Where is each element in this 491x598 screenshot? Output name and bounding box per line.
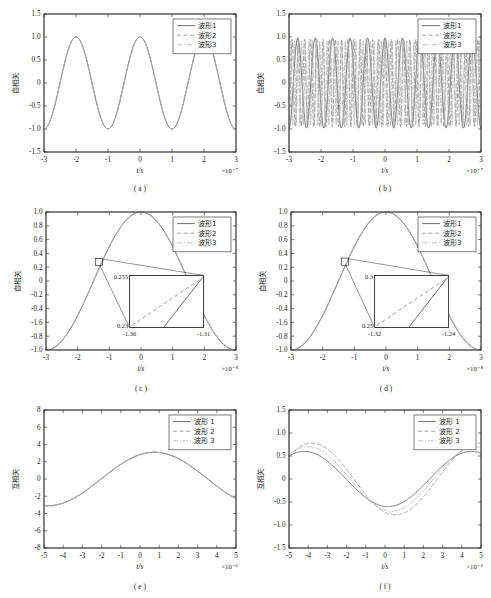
x-tick-label: 1 xyxy=(402,552,406,560)
y-tick-label: -0.2 xyxy=(31,291,43,299)
y-tick-label: -0.2 xyxy=(276,291,288,299)
y-tick-label: 6 xyxy=(37,424,41,432)
x-tick-label: -2 xyxy=(344,552,350,560)
x-tick-label: -5 xyxy=(286,552,292,560)
y-axis-label: 自相关 xyxy=(11,72,20,94)
legend-label-2: 波形2 xyxy=(443,31,461,40)
x-axis-label: t/s xyxy=(382,167,389,175)
y-tick-label: -0.4 xyxy=(276,305,288,313)
x-tick-label: 5 xyxy=(479,552,483,560)
x-tick-label: -2 xyxy=(99,552,105,560)
x-tick-label: -1 xyxy=(106,354,112,362)
y-tick-label: 1.0 xyxy=(277,33,286,41)
x-tick-label: -1 xyxy=(351,354,357,362)
y-tick-label: -1.0 xyxy=(31,346,43,354)
x-tick-label: 1 xyxy=(170,156,174,164)
y-tick-label: 0 xyxy=(37,475,41,483)
x-tick-label: -2 xyxy=(73,156,79,164)
inset-y-tick-label-top: 0.255 xyxy=(114,273,128,280)
x-tick-label: 0 xyxy=(384,354,388,362)
y-tick-label: 0.6 xyxy=(279,236,288,244)
y-tick-label: 2 xyxy=(37,458,41,466)
y-axis-label: 互相关 xyxy=(256,468,265,490)
x-tick-label: 3 xyxy=(196,552,200,560)
x-tick-label: 2 xyxy=(177,552,181,560)
plot-panel-c: -3-2-10123-1.0-0.8-1.6-0.4-0.200.20.40.6… xyxy=(0,200,246,398)
series-curve-3 xyxy=(289,447,481,511)
x-tick-label: 3 xyxy=(441,552,445,560)
y-tick-label: 0.5 xyxy=(277,56,286,64)
subplot-caption: ( e ) xyxy=(134,582,146,591)
plot-panel-b: -3-2-10123-1.5-1.0-0.500.51.01.5t/s×10⁻⁷… xyxy=(245,2,491,198)
y-tick-label: 0.8 xyxy=(34,222,43,230)
x-tick-label: 0 xyxy=(138,552,142,560)
inset-x-tick-label-left: -1.32 xyxy=(368,330,381,337)
x-tick-label: 5 xyxy=(234,552,238,560)
y-tick-label: -1.5 xyxy=(274,148,286,156)
y-tick-label: 4 xyxy=(37,441,41,449)
y-tick-label: -1.0 xyxy=(29,125,41,133)
y-axis-label: 自相关 xyxy=(256,72,265,94)
legend-label-2: 波形 2 xyxy=(194,427,215,436)
inset-y-tick-label-top: 0.3 xyxy=(365,273,373,280)
legend-label-3: 波形3 xyxy=(198,40,216,49)
figure-six-panel-correlation: -3-2-10123-1.5-1.0-0.500.51.01.5t/s×10⁻⁷… xyxy=(0,0,491,598)
legend-label-1: 波形1 xyxy=(443,21,461,30)
x-tick-label: -3 xyxy=(286,156,292,164)
x-tick-label: -3 xyxy=(43,354,49,362)
y-tick-label: -1.5 xyxy=(274,544,286,552)
y-axis-label: 自相关 xyxy=(258,270,267,292)
legend-label-3: 波形3 xyxy=(443,238,461,247)
x-tick-label: 2 xyxy=(202,156,206,164)
x-tick-label: 1 xyxy=(157,552,161,560)
x-axis-exponent: ×10⁻⁸ xyxy=(221,365,238,372)
y-tick-label: 0 xyxy=(284,277,288,285)
x-tick-label: -5 xyxy=(41,552,47,560)
subplot-caption: ( d ) xyxy=(380,384,393,393)
y-tick-label: -2 xyxy=(35,493,41,501)
x-axis-exponent: ×10⁻⁷ xyxy=(221,167,238,174)
x-tick-label: 0 xyxy=(139,354,143,362)
y-tick-label: -6 xyxy=(35,527,41,535)
x-axis-exponent: ×10⁻⁷ xyxy=(466,167,483,174)
x-axis-label: t/s xyxy=(138,365,145,373)
legend-label-1: 波形 1 xyxy=(439,417,460,426)
y-axis-label: 互相关 xyxy=(11,468,20,490)
inset-plot-box xyxy=(130,275,204,327)
inset-x-tick-label-right: -1.31 xyxy=(197,330,210,337)
y-tick-label: 1.5 xyxy=(277,406,286,414)
x-tick-label: 1 xyxy=(171,354,175,362)
x-tick-label: 0 xyxy=(383,552,387,560)
y-tick-label: 1.0 xyxy=(277,429,286,437)
y-tick-label: -1.0 xyxy=(274,521,286,529)
y-tick-label: -0.8 xyxy=(276,333,288,341)
legend-label-1: 波形 1 xyxy=(194,417,215,426)
y-tick-label: -8 xyxy=(35,544,41,552)
y-tick-label: -1.5 xyxy=(29,148,41,156)
x-tick-label: -1 xyxy=(363,552,369,560)
y-tick-label: 0.4 xyxy=(279,250,288,258)
y-tick-label: -4 xyxy=(35,510,41,518)
legend-label-1: 波形1 xyxy=(198,21,216,30)
y-tick-label: -1.6 xyxy=(31,319,43,327)
y-tick-label: 1.5 xyxy=(277,10,286,18)
x-tick-label: 3 xyxy=(234,354,238,362)
x-tick-label: -3 xyxy=(324,552,330,560)
x-tick-label: 4 xyxy=(460,552,464,560)
plot-panel-e: -5-4-3-2-1012345-8-6-4-202468t/s×10⁻⁶互相关… xyxy=(0,398,246,596)
legend-label-2: 波形2 xyxy=(198,31,216,40)
legend-label-2: 波形 2 xyxy=(439,427,460,436)
x-tick-label: -2 xyxy=(75,354,81,362)
x-tick-label: 3 xyxy=(479,156,483,164)
plot-panel-f: -5-4-3-2-1012345-1.5-1.0-0.500.51.01.5t/… xyxy=(245,398,491,596)
y-tick-label: -0.8 xyxy=(31,333,43,341)
y-tick-label: 8 xyxy=(37,406,41,414)
x-tick-label: 0 xyxy=(383,156,387,164)
subplot-caption: ( f ) xyxy=(379,582,391,591)
legend-label-3: 波形 3 xyxy=(439,436,460,445)
y-tick-label: 0 xyxy=(39,277,43,285)
y-tick-label: -0.5 xyxy=(274,498,286,506)
x-tick-label: 1 xyxy=(416,354,420,362)
y-tick-label: -0.5 xyxy=(274,102,286,110)
x-tick-label: 3 xyxy=(479,354,483,362)
